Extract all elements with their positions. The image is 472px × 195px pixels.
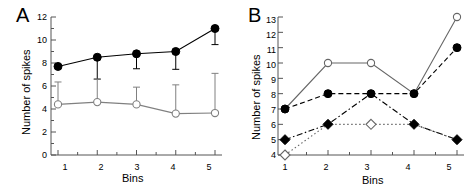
marker-filled-circle-filled-circle-series-2 — [367, 90, 375, 98]
marker-open-circle-open-circle-series-4 — [453, 13, 460, 20]
marker-open-diamond-open-diamond-series-2 — [366, 119, 376, 129]
marker-filled-circle-filled-circle-series-2 — [133, 50, 141, 58]
marker-filled-diamond-filled-diamond-series-4 — [452, 135, 462, 145]
marker-filled-circle-filled-circle-series-0 — [54, 62, 62, 70]
marker-filled-circle-filled-circle-series-0 — [281, 105, 289, 113]
marker-open-circle-open-circle-series-0 — [54, 101, 61, 108]
marker-filled-circle-filled-circle-series-4 — [453, 44, 461, 52]
marker-filled-circle-filled-circle-series-3 — [410, 90, 418, 98]
marker-filled-circle-filled-circle-series-1 — [93, 53, 101, 61]
panel-a-ticks — [51, 17, 215, 155]
marker-open-circle-open-circle-series-2 — [133, 101, 140, 108]
panel-a: A Number of spikes Bins 0 2 4 6 8 10 12 … — [0, 0, 236, 195]
panel-b-ticks — [278, 17, 457, 155]
marker-filled-circle-filled-circle-series-1 — [324, 90, 332, 98]
panel-a-plot — [0, 0, 236, 195]
figure-container: A Number of spikes Bins 0 2 4 6 8 10 12 … — [0, 0, 472, 195]
panel-b: B Number of spikes Bins 4 5 6 7 8 9 10 1… — [236, 0, 472, 195]
panel-a-axes — [51, 17, 222, 155]
marker-open-circle-open-circle-series-3 — [172, 110, 179, 117]
marker-open-diamond-open-diamond-series-0 — [280, 150, 290, 160]
marker-open-circle-open-circle-series-2 — [367, 59, 374, 66]
marker-filled-diamond-filled-diamond-series-1 — [323, 119, 333, 129]
panel-a-data — [54, 25, 219, 118]
marker-open-circle-open-circle-series-1 — [94, 99, 101, 106]
panel-b-data — [280, 13, 462, 160]
marker-filled-diamond-filled-diamond-series-3 — [409, 119, 419, 129]
marker-filled-circle-filled-circle-series-3 — [172, 48, 180, 56]
marker-open-circle-open-circle-series-4 — [211, 109, 218, 116]
series-line-filled-circle-series — [285, 48, 457, 109]
panel-b-plot — [236, 0, 472, 195]
marker-filled-diamond-filled-diamond-series-0 — [280, 135, 290, 145]
series-line-filled-diamond-series — [285, 94, 457, 140]
marker-open-circle-open-circle-series-1 — [324, 59, 331, 66]
marker-filled-circle-filled-circle-series-4 — [211, 25, 219, 33]
